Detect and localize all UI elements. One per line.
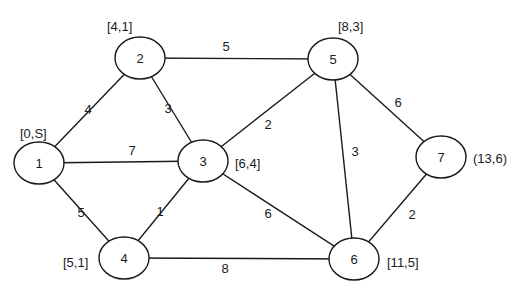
node-2: 2 [115,37,165,79]
edge-5-6 [333,59,354,259]
node-id-2: 2 [136,51,143,66]
node-label-7: (13,6) [473,151,507,166]
node-id-6: 6 [350,252,357,267]
node-label-3: [6,4] [235,156,260,171]
node-id-3: 3 [199,154,206,169]
edge-weight-2-3: 3 [164,101,171,116]
weighted-graph-diagram: 1234567 475351268362[0,S][4,1][6,4][5,1]… [0,0,525,297]
edge-3-6 [203,161,354,259]
edge-2-5 [140,58,333,59]
node-4: 4 [99,237,149,279]
edge-4-6 [124,258,354,259]
edge-weight-6-7: 2 [408,207,415,222]
node-id-1: 1 [35,156,42,171]
edge-weight-1-4: 5 [77,205,84,220]
node-1: 1 [14,142,64,184]
edge-weight-2-5: 5 [222,39,229,54]
edge-weight-4-6: 8 [221,261,228,276]
node-6: 6 [329,238,379,280]
edge-3-5 [203,59,333,161]
node-label-4: [5,1] [63,255,88,270]
node-id-5: 5 [329,52,336,67]
edge-weight-1-3: 7 [128,143,135,158]
edge-weight-5-6: 3 [351,144,358,159]
edge-weight-5-7: 6 [394,95,401,110]
node-3: 3 [178,140,228,182]
node-id-4: 4 [120,251,127,266]
node-label-1: [0,S] [20,126,47,141]
edge-weight-3-6: 6 [264,206,271,221]
node-id-7: 7 [437,150,444,165]
node-label-6: [11,5] [387,255,419,270]
node-7: 7 [416,136,466,178]
node-label-2: [4,1] [107,19,132,34]
edge-weight-3-4: 1 [156,204,163,219]
node-5: 5 [308,38,358,80]
node-label-5: [8,3] [338,19,363,34]
edge-weight-1-2: 4 [84,102,91,117]
edge-weight-3-5: 2 [264,117,271,132]
